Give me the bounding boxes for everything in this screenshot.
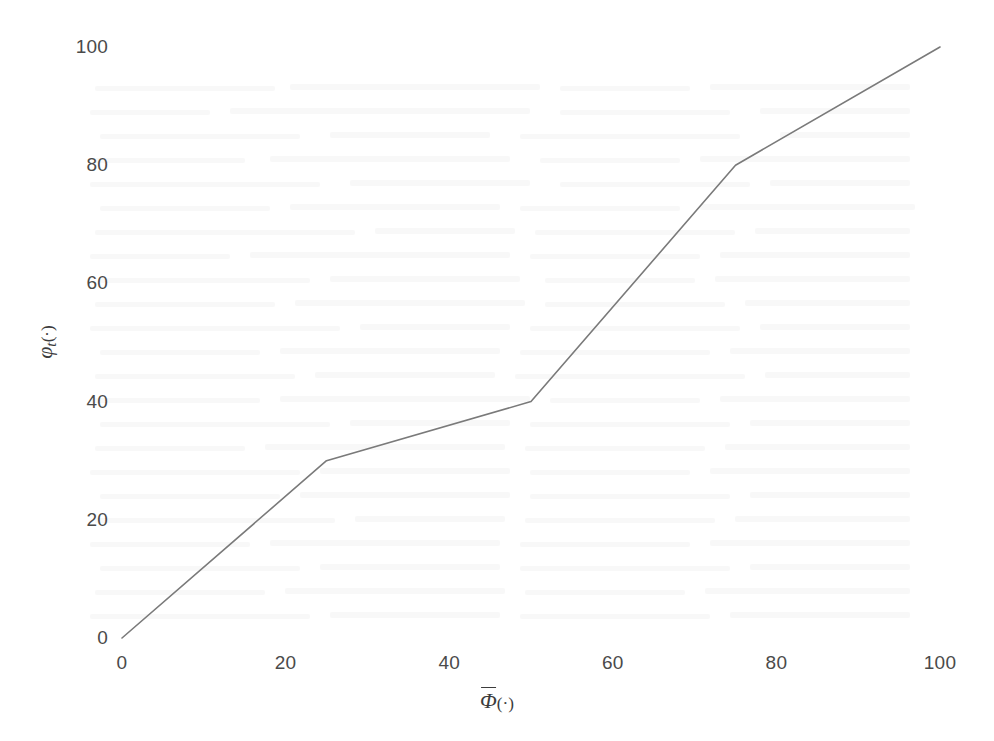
y-axis-title: φt(·) [32, 325, 60, 359]
y-tick-label-80: 80 [0, 154, 108, 176]
plot-area [0, 0, 994, 741]
x-axis-symbol: Φ [480, 688, 497, 714]
y-tick-label-100: 100 [0, 36, 108, 58]
y-tick-label-0: 0 [0, 627, 108, 649]
x-axis-title: Φ(·) [480, 688, 514, 714]
y-axis-subscript: t [42, 342, 59, 346]
x-axis-suffix: (·) [497, 694, 514, 713]
y-axis-suffix: (·) [38, 325, 57, 342]
x-tick-label-100: 100 [924, 652, 956, 674]
x-tick-label-20: 20 [275, 652, 297, 674]
data-series-line [122, 47, 940, 638]
y-tick-label-20: 20 [0, 509, 108, 531]
y-tick-label-40: 40 [0, 391, 108, 413]
y-tick-label-60: 60 [0, 272, 108, 294]
x-tick-label-40: 40 [438, 652, 460, 674]
x-tick-label-80: 80 [766, 652, 788, 674]
x-tick-label-60: 60 [602, 652, 624, 674]
chart-figure: 020406080100 020406080100 Φ(·) φt(·) [0, 0, 994, 741]
x-tick-label-0: 0 [117, 652, 128, 674]
y-axis-symbol: φ [32, 347, 57, 359]
